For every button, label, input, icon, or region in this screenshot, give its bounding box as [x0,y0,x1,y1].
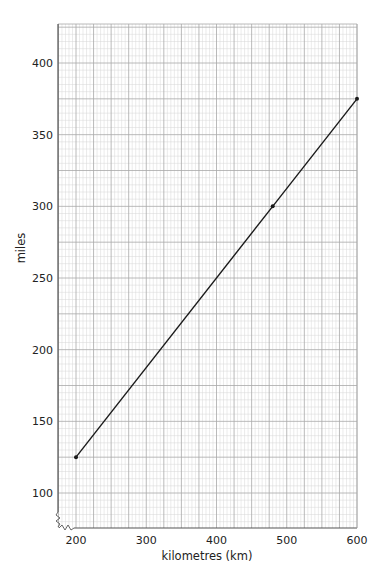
data-point-marker [271,204,275,208]
y-tick-label: 200 [32,344,53,357]
conversion-chart: 200300400500600 100150200250300350400 ki… [0,0,388,580]
y-tick-label: 150 [32,415,53,428]
y-tick-label: 400 [32,57,53,70]
x-tick-label: 500 [276,534,297,547]
x-axis-title: kilometres (km) [162,549,253,563]
y-tick-label: 100 [32,487,53,500]
axes [58,24,357,528]
x-tick-label: 200 [66,534,87,547]
data-point-marker [355,97,359,101]
y-tick-label: 350 [32,129,53,142]
x-axis-tick-labels: 200300400500600 [66,534,368,547]
y-axis-title: miles [14,233,28,264]
x-tick-label: 300 [136,534,157,547]
y-tick-label: 250 [32,272,53,285]
data-point-marker [74,455,78,459]
y-axis-tick-labels: 100150200250300350400 [32,57,53,500]
x-tick-label: 600 [347,534,368,547]
y-tick-label: 300 [32,200,53,213]
grid-minor-lines [58,24,357,528]
grid-major-lines [58,24,357,528]
x-tick-label: 400 [206,534,227,547]
